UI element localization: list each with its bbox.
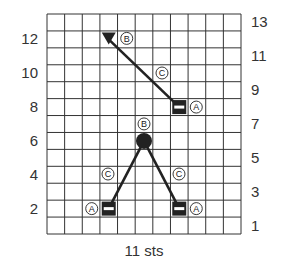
stitch-symbols: BABAA: [86, 32, 203, 215]
row-label-right: 1: [251, 217, 259, 234]
circled-label-b: B: [121, 32, 133, 44]
circled-label-c: C: [173, 168, 185, 180]
black-box-dash-icon: [172, 100, 186, 114]
circled-label-c: C: [102, 168, 114, 180]
row-label-left: 4: [30, 166, 38, 183]
row-label-right: 3: [251, 183, 259, 200]
row-label-left: 12: [21, 30, 38, 47]
row-label-right: 13: [251, 13, 268, 30]
svg-text:B: B: [124, 34, 130, 44]
row-label-left: 2: [30, 200, 38, 217]
filled-circle-icon: [136, 133, 152, 149]
svg-text:C: C: [159, 68, 166, 78]
connector-line: [109, 39, 180, 107]
circled-label-c: C: [156, 67, 168, 79]
row-label-right: 7: [251, 115, 259, 132]
row-label-right: 5: [251, 149, 259, 166]
svg-text:C: C: [176, 169, 183, 179]
svg-text:A: A: [193, 204, 199, 214]
circled-label-a: A: [190, 203, 202, 215]
black-box-dash-icon: [172, 202, 186, 216]
row-label-right: 11: [251, 47, 267, 64]
row-label-left: 8: [30, 98, 38, 115]
svg-text:C: C: [105, 169, 112, 179]
row-label-right: 9: [251, 81, 259, 98]
row-label-left: 6: [30, 132, 38, 149]
circled-label-a: A: [86, 203, 98, 215]
svg-text:B: B: [141, 119, 147, 129]
circled-label-b: B: [138, 118, 150, 130]
row-label-left: 10: [21, 64, 38, 81]
stitch-chart: CCC BABAA 12108642131197531: [0, 0, 282, 273]
black-box-dash-icon: [102, 202, 116, 216]
svg-text:A: A: [193, 102, 199, 112]
circled-label-a: A: [190, 101, 202, 113]
svg-text:A: A: [89, 204, 95, 214]
stitch-count-caption: 11 sts: [0, 242, 282, 259]
